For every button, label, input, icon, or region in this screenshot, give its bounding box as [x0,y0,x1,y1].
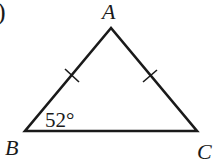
enumeration-paren: ) [0,0,6,26]
triangle-diagram: ) A B C 52° [0,0,214,162]
vertex-label-b: B [5,135,18,160]
vertex-label-c: C [197,139,212,162]
angle-b-label: 52° [45,108,74,132]
vertex-label-a: A [100,0,116,24]
